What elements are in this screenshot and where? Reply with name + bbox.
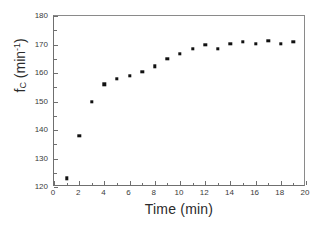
x-axis-tick: [256, 181, 257, 185]
data-point: [65, 177, 68, 180]
data-point: [292, 40, 295, 43]
y-axis-symbol: f: [12, 89, 28, 93]
data-point: [254, 42, 257, 45]
data-point: [103, 83, 106, 86]
x-axis-tick: [79, 181, 80, 185]
x-axis-tick-label: 16: [250, 188, 259, 197]
y-axis-tick-label: 130: [8, 153, 48, 162]
x-axis-tick: [180, 181, 181, 185]
x-axis-minor-tick: [243, 183, 244, 186]
data-point: [266, 39, 269, 42]
x-axis-tick-label: 14: [225, 188, 234, 197]
x-axis-tick-label: 4: [101, 188, 105, 197]
y-axis-tick: [54, 130, 58, 131]
x-axis-tick: [130, 181, 131, 185]
y-axis-tick: [54, 16, 58, 17]
x-axis-tick-label: 0: [51, 188, 55, 197]
x-axis-tick: [281, 181, 282, 185]
x-axis-minor-tick: [92, 183, 93, 186]
y-axis-tick: [54, 102, 58, 103]
y-axis-tick-label: 170: [8, 39, 48, 48]
data-point: [90, 100, 93, 103]
x-axis-minor-tick: [193, 183, 194, 186]
x-axis-tick: [230, 181, 231, 185]
data-point: [166, 57, 169, 60]
y-axis-minor-tick: [54, 116, 57, 117]
data-point: [191, 47, 194, 50]
x-axis-tick-label: 2: [76, 188, 80, 197]
x-axis-tick-label: 20: [301, 188, 310, 197]
x-axis-tick: [104, 181, 105, 185]
y-axis-minor-tick: [54, 87, 57, 88]
x-axis-tick-label: 12: [200, 188, 209, 197]
y-axis-minor-tick: [54, 144, 57, 145]
data-point: [279, 42, 282, 45]
y-axis-tick-label: 150: [8, 96, 48, 105]
x-axis-minor-tick: [142, 183, 143, 186]
y-axis-tick: [54, 45, 58, 46]
data-point: [77, 134, 80, 137]
y-axis-minor-tick: [54, 59, 57, 60]
y-axis-tick-label: 140: [8, 125, 48, 134]
x-axis-minor-tick: [117, 183, 118, 186]
x-axis-tick-label: 10: [175, 188, 184, 197]
data-point: [128, 74, 131, 77]
y-axis-minor-tick: [54, 173, 57, 174]
x-axis-tick: [306, 181, 307, 185]
y-axis-tick-label: 180: [8, 11, 48, 20]
x-axis-tick-label: 6: [126, 188, 130, 197]
data-point: [203, 43, 206, 46]
x-axis-tick: [54, 181, 55, 185]
data-point: [241, 40, 244, 43]
y-axis-tick-label: 120: [8, 182, 48, 191]
chart-figure: Time (min) fC (min-1) 024681012141618201…: [0, 0, 321, 226]
x-axis-tick: [155, 181, 156, 185]
y-axis-tick-label: 160: [8, 68, 48, 77]
y-axis-unit-base: (min: [12, 51, 28, 82]
y-axis-tick: [54, 159, 58, 160]
x-axis-tick-label: 18: [275, 188, 284, 197]
data-point: [229, 42, 232, 45]
data-point: [178, 52, 181, 55]
data-point: [153, 64, 156, 67]
plot-area: [53, 15, 305, 186]
x-axis-title: Time (min): [53, 201, 305, 217]
y-axis-tick: [54, 73, 58, 74]
y-axis-title: fC (min-1): [12, 0, 29, 130]
y-axis-minor-tick: [54, 30, 57, 31]
data-point: [216, 47, 219, 50]
x-axis-minor-tick: [268, 183, 269, 186]
x-axis-minor-tick: [167, 183, 168, 186]
x-axis-tick-label: 8: [152, 188, 156, 197]
x-axis-minor-tick: [67, 183, 68, 186]
x-axis-minor-tick: [218, 183, 219, 186]
data-point: [115, 77, 118, 80]
x-axis-tick: [205, 181, 206, 185]
y-axis-subscript: C: [18, 82, 28, 89]
data-point: [140, 70, 143, 73]
x-axis-minor-tick: [293, 183, 294, 186]
